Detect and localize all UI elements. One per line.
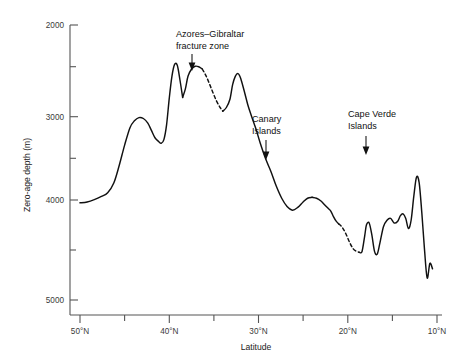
data-curve-layer: [80, 63, 433, 278]
y-tick-label-5000: 5000: [46, 296, 65, 305]
y-tick-label-3000: 3000: [46, 113, 65, 122]
x-tick-label-30N: 30°N: [249, 327, 267, 336]
annotation-label-line2: Islands: [348, 121, 377, 131]
x-tick-label-10N: 10°N: [428, 327, 446, 336]
annotation-arrow-head: [263, 152, 270, 161]
x-tick-label-40N: 40°N: [160, 327, 178, 336]
annotation-label-line1: Azores–Gibraltar: [176, 29, 244, 39]
annotation-canary-islands: Canary Islands: [252, 114, 282, 160]
y-tick-label-4000: 4000: [46, 196, 65, 205]
data-curve-segment-3: [223, 74, 312, 211]
data-curve-segment-1: [183, 66, 203, 97]
chart-figure: 2000 3000 4000 5000 50°N 40°N 30°N 20°N …: [0, 0, 465, 358]
x-axis-title: Latitude: [241, 342, 272, 352]
annotation-label-line2: Islands: [252, 126, 281, 136]
zero-age-depth-plot: 2000 3000 4000 5000 50°N 40°N 30°N 20°N …: [0, 0, 465, 358]
y-tick-label-2000: 2000: [46, 21, 65, 30]
y-tick-group: 2000 3000 4000 5000: [46, 21, 78, 305]
annotation-label-line1: Cape Verde: [348, 109, 396, 119]
y-axis-title: Zero-age depth (m): [22, 138, 32, 212]
data-curve-segment-6: [359, 176, 432, 278]
data-curve-segment-0: [80, 63, 183, 203]
data-curve-segment-2: [202, 69, 223, 111]
data-curve-segment-5: [339, 224, 360, 252]
x-tick-label-20N: 20°N: [339, 327, 357, 336]
annotation-azores-gibraltar: Azores–Gibraltar fracture zone: [176, 29, 244, 71]
data-curve-segment-4: [312, 197, 339, 224]
x-tick-group: 50°N 40°N 30°N 20°N 10°N: [71, 315, 446, 336]
axis-group: [70, 25, 442, 315]
x-tick-label-50N: 50°N: [71, 327, 89, 336]
annotation-arrow-head: [363, 147, 370, 156]
annotation-label-line2: fracture zone: [176, 41, 229, 51]
annotation-cape-verde-islands: Cape Verde Islands: [348, 109, 396, 155]
annotation-label-line1: Canary: [252, 114, 282, 124]
